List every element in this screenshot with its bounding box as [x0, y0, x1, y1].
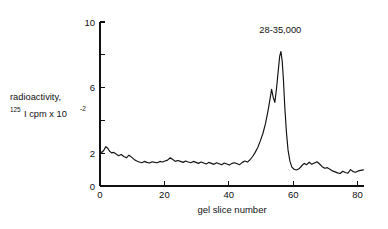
- x-tick-label-60: 60: [288, 189, 299, 200]
- y-tick-label-10: 10: [84, 17, 95, 28]
- y-axis-ticks: [100, 22, 105, 186]
- data-series-radioactivity: [100, 52, 363, 174]
- peak-annotation-label: 28-35,000: [259, 25, 301, 35]
- y-axis-label-line1: radioactivity,: [10, 92, 61, 102]
- radioactivity-gel-slice-chart: radioactivity, 125 I cpm x 10 -2 0 2 6 1…: [0, 0, 388, 229]
- x-tick-label-40: 40: [224, 189, 235, 200]
- y-axis-label-line2: I cpm x 10: [24, 109, 67, 119]
- x-tick-label-0: 0: [97, 189, 102, 200]
- y-axis-label-exponent: -2: [80, 105, 86, 112]
- y-axis-tick-labels: 0 2 6 10: [84, 17, 95, 192]
- x-axis-ticks: [100, 181, 358, 186]
- x-axis-tick-labels: 0 20 40 60 80: [97, 189, 363, 200]
- x-tick-label-80: 80: [352, 189, 363, 200]
- y-tick-label-0: 0: [90, 181, 95, 192]
- y-axis-label-superscript: 125: [10, 106, 21, 113]
- x-axis-title: gel slice number: [197, 204, 266, 215]
- x-tick-label-20: 20: [159, 189, 170, 200]
- figure-container: radioactivity, 125 I cpm x 10 -2 0 2 6 1…: [0, 0, 388, 229]
- y-tick-label-6: 6: [90, 82, 95, 93]
- y-tick-label-2: 2: [90, 148, 95, 159]
